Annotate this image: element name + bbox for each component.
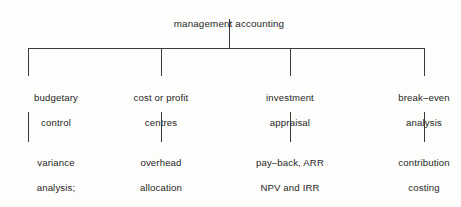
branch-3-leaf-line-2: NPV and IRR: [227, 182, 353, 194]
branch-1-label-line-2: control: [0, 117, 112, 129]
root-stem-connector: [229, 19, 230, 48]
branch-3-leaf-connector: [290, 112, 291, 142]
branch-1-leaf-line-2: analysis;: [0, 182, 112, 194]
branch-2-leaf-connector: [161, 112, 162, 142]
branch-3-drop-connector: [290, 48, 291, 76]
branch-3-leaf-line-1: pay–back, ARR: [227, 157, 353, 169]
branch-2-leaf-line-1: overhead: [105, 157, 217, 169]
branch-1-leaf-line-1: variance: [0, 157, 112, 169]
horizontal-bus-connector: [28, 48, 425, 49]
branch-4-leaf-line-2: costing: [368, 182, 461, 194]
branch-1-label-line-1: budgetary: [0, 92, 112, 104]
branch-4-label-line-2: analysis: [368, 117, 461, 129]
leaf-node-payback-arr-npv-irr: pay–back, ARR NPV and IRR: [227, 145, 353, 206]
branch-1-leaf-connector: [28, 112, 29, 142]
branch-2-label-line-1: cost or profit: [105, 92, 217, 104]
branch-1-drop-connector: [28, 48, 29, 76]
branch-2-leaf-line-2: allocation: [105, 182, 217, 194]
management-accounting-tree-diagram: management accounting budgetary control …: [0, 0, 461, 207]
branch-4-leaf-line-1: contribution: [368, 157, 461, 169]
branch-4-label-line-1: break–even: [368, 92, 461, 104]
branch-3-label-line-1: investment: [234, 92, 346, 104]
leaf-node-variance-analysis: variance analysis; cash–flow forecasts: [0, 145, 112, 207]
leaf-node-contribution-costing: contribution costing: [368, 145, 461, 206]
branch-1-leaf-line-3: cash–flow: [0, 206, 112, 207]
branch-2-drop-connector: [161, 48, 162, 76]
leaf-node-overhead-allocation: overhead allocation: [105, 145, 217, 206]
branch-4-drop-connector: [424, 48, 425, 76]
branch-node-break-even-analysis: break–even analysis: [368, 80, 461, 141]
branch-node-budgetary-control: budgetary control: [0, 80, 112, 141]
branch-4-leaf-connector: [424, 112, 425, 142]
